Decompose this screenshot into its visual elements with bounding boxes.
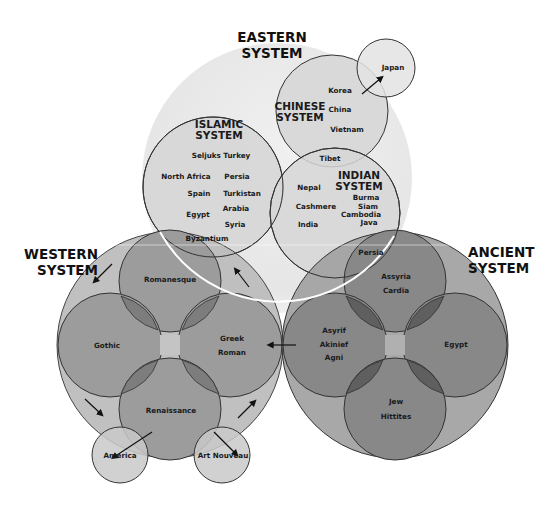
item-label: Hittites: [381, 412, 411, 421]
item-label: Art Nouveau: [198, 451, 249, 460]
item-label: Akinief: [320, 340, 349, 349]
item-label: Korea: [328, 86, 352, 95]
item-label: Romanesque: [144, 275, 196, 284]
chinese-title: SYSTEM: [276, 111, 324, 123]
item-label: Tibet: [320, 154, 341, 163]
item-label: Egypt: [186, 210, 210, 219]
architecture-systems-diagram: EASTERN SYSTEM CHINESE SYSTEM Korea Chin…: [0, 0, 557, 505]
item-label: Gothic: [94, 341, 120, 350]
item-label: North Africa: [161, 172, 211, 181]
item-label: Asyrif: [322, 326, 347, 335]
item-label: Jew: [388, 397, 404, 406]
item-label: India: [298, 220, 318, 229]
item-label: Burma: [353, 193, 380, 202]
item-label: China: [329, 105, 352, 114]
item-label: Japan: [381, 63, 405, 72]
eastern-title: EASTERN: [237, 29, 307, 45]
item-label: Cardia: [383, 286, 409, 295]
item-label: Assyria: [381, 272, 411, 281]
item-label: Vietnam: [330, 125, 364, 134]
item-label: Persia: [224, 172, 249, 181]
islamic-title: SYSTEM: [195, 129, 243, 141]
item-label: Persia: [358, 248, 383, 257]
item-label: Renaissance: [146, 406, 197, 415]
ancient-title: ANCIENT: [468, 244, 535, 260]
western-title: WESTERN: [24, 246, 98, 262]
item-label: Spain: [188, 189, 211, 198]
item-label: Turkistan: [223, 189, 261, 198]
ancient-title: SYSTEM: [468, 260, 529, 276]
item-label: Cashmere: [296, 202, 336, 211]
eastern-title: SYSTEM: [241, 45, 302, 61]
item-label: Egypt: [444, 340, 468, 349]
item-label: Java: [359, 218, 377, 227]
item-label: Nepal: [297, 183, 320, 192]
item-label: America: [103, 451, 136, 460]
item-label: Arabia: [223, 204, 250, 213]
western-title: SYSTEM: [37, 262, 98, 278]
item-label: Byzantium: [186, 234, 229, 243]
item-label: Roman: [218, 348, 246, 357]
indian-title: SYSTEM: [335, 180, 383, 192]
item-label: Seljuks Turkey: [192, 151, 251, 160]
item-label: Agni: [325, 353, 343, 362]
item-label: Greek: [220, 334, 244, 343]
item-label: Syria: [225, 220, 246, 229]
